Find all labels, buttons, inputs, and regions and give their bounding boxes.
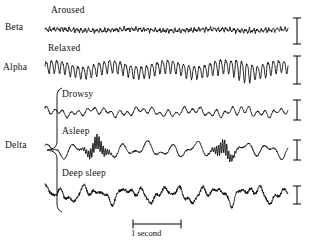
- amplitude-scale-bar-deep-sleep: [293, 186, 301, 204]
- eeg-traces-canvas: [0, 0, 312, 248]
- band-label-beta: Beta: [5, 22, 23, 32]
- band-label-alpha: Alpha: [3, 62, 27, 72]
- waveform-traces: [45, 26, 288, 208]
- trace-aroused: [45, 26, 288, 34]
- state-label-aroused: Aroused: [51, 5, 85, 15]
- amplitude-scale-bar-aroused: [293, 18, 301, 44]
- eeg-figure: Beta Alpha Delta Aroused Relaxed Drowsy …: [0, 0, 312, 248]
- amplitude-scale-bars: [293, 18, 301, 204]
- amplitude-scale-bar-drowsy: [293, 100, 301, 120]
- state-label-deep-sleep: Deep sleep: [62, 168, 106, 178]
- trace-asleep: [45, 134, 288, 162]
- amplitude-scale-bar-asleep: [293, 140, 301, 160]
- time-scale-label: 1 second: [131, 228, 161, 238]
- state-label-asleep: Asleep: [62, 126, 90, 136]
- trace-deep-sleep: [45, 184, 288, 209]
- amplitude-scale-bar-relaxed: [293, 56, 301, 84]
- trace-relaxed: [45, 59, 288, 83]
- trace-drowsy: [45, 106, 288, 118]
- band-label-delta: Delta: [5, 140, 27, 150]
- state-label-relaxed: Relaxed: [48, 43, 81, 53]
- state-label-drowsy: Drowsy: [62, 89, 93, 99]
